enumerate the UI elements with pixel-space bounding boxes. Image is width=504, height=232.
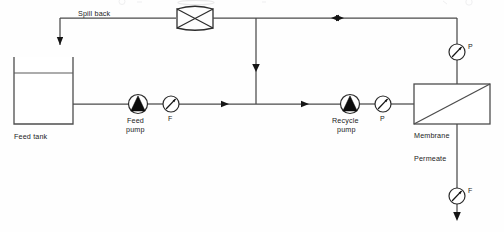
feed-tank (14, 57, 73, 124)
return-flow-arrow (331, 15, 339, 21)
process-flow-diagram: Feed tank Spill back (0, 0, 504, 232)
feed-pump[interactable] (129, 95, 148, 114)
spill-back-line (60, 18, 176, 45)
recycle-pressure-gauge-tag: P (380, 115, 385, 122)
feed-pump-label-line2: pump (126, 125, 145, 134)
recycle-pressure-gauge[interactable] (375, 96, 391, 112)
feed-pump-label-line1: Feed (127, 116, 144, 125)
main-flow-arrow-1 (221, 101, 229, 107)
permeate-flow-meter[interactable] (449, 188, 465, 204)
spill-back-valve[interactable] (177, 6, 213, 30)
feed-flow-meter-tag: F (168, 115, 172, 122)
spill-back-label: Spill back (78, 9, 111, 18)
membrane-label: Membrane (414, 131, 450, 140)
membrane-module[interactable] (414, 84, 490, 124)
recycle-pump[interactable] (341, 95, 360, 114)
scan-artifact-band (119, 0, 472, 5)
recycle-pump-label-line2: pump (337, 125, 356, 134)
permeate-flow-arrow (453, 212, 461, 221)
permeate-line (453, 124, 461, 221)
recirculation-downcomer (252, 18, 260, 104)
permeate-label: Permeate (414, 154, 446, 163)
recycle-pump-label-line1: Recycle (332, 116, 359, 125)
main-process-line (73, 101, 414, 107)
retentate-pressure-gauge[interactable] (449, 44, 465, 60)
permeate-flow-meter-tag: F (468, 187, 472, 194)
retentate-pressure-gauge-tag: P (468, 43, 473, 50)
downcomer-flow-arrow (252, 64, 260, 72)
main-flow-arrow-2 (301, 101, 309, 107)
feed-flow-meter[interactable] (163, 96, 179, 112)
feed-tank-label: Feed tank (14, 132, 48, 141)
flow-diagram-canvas: Feed tank Spill back (0, 0, 504, 232)
